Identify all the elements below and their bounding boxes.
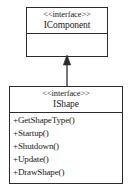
generalization-arrow: [56, 55, 78, 88]
interface-header-ishape: <<interface>> IShape: [10, 87, 122, 112]
operation-item: +DrawShape(): [10, 166, 122, 179]
interface-box-ishape[interactable]: <<interface>> IShape +GetShapeType()+Sta…: [9, 86, 123, 184]
operations-compartment-icomponent: [27, 33, 107, 51]
operation-item: +Update(): [10, 153, 122, 166]
operation-item: +Startup(): [10, 127, 122, 140]
stereotype-label: <<interface>>: [29, 10, 105, 20]
operations-compartment-ishape: +GetShapeType()+Startup()+Shutdown()+Upd…: [10, 112, 122, 180]
operations-list-icomponent: [27, 34, 107, 36]
operation-item: +Shutdown(): [10, 140, 122, 153]
stereotype-label: <<interface>>: [12, 89, 120, 99]
operation-item: +GetShapeType(): [10, 114, 122, 127]
interface-name-label: IComponent: [29, 20, 105, 31]
generalization-arrowhead-icon: [63, 55, 70, 65]
uml-class-diagram: <<interface>> IComponent <<interface>> I…: [0, 0, 133, 190]
operations-list-ishape: +GetShapeType()+Startup()+Shutdown()+Upd…: [10, 113, 122, 180]
interface-box-icomponent[interactable]: <<interface>> IComponent: [26, 7, 108, 57]
interface-header-icomponent: <<interface>> IComponent: [27, 8, 107, 33]
interface-name-label: IShape: [12, 99, 120, 110]
